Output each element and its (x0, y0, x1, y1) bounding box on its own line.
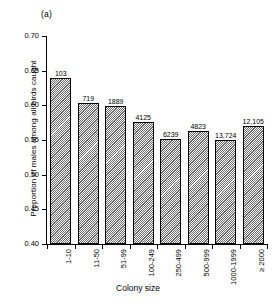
x-tick (240, 245, 241, 249)
x-tick (75, 245, 76, 249)
x-tick (102, 245, 103, 249)
bar-value-label: 13,724 (215, 132, 236, 139)
bar: 13,724 (215, 140, 236, 244)
bar-value-label: 103 (55, 70, 67, 77)
bar-value-label: 4823 (190, 123, 206, 130)
x-tick (185, 245, 186, 249)
x-category-label: 1000-1999 (229, 249, 238, 285)
bar-series: 103719188941256239482313,72412,105 (47, 36, 268, 244)
x-tick (47, 245, 48, 249)
plot-area: 0.400.450.500.550.600.650.70 10371918894… (46, 36, 268, 245)
bar: 103 (50, 78, 71, 244)
y-tick: 0.50 (42, 175, 46, 176)
x-category-label: 500-999 (202, 249, 211, 277)
x-category-label: 100-249 (147, 249, 156, 277)
y-tick-label: 0.45 (24, 204, 39, 213)
x-tick (130, 245, 131, 249)
bar: 4125 (133, 122, 154, 244)
y-tick: 0.40 (42, 244, 46, 245)
x-category-label: ≥ 2000 (257, 249, 266, 272)
y-tick: 0.45 (42, 209, 46, 210)
bar-value-label: 1889 (108, 98, 124, 105)
y-tick-label: 0.70 (24, 31, 39, 40)
bar-value-label: 12,105 (243, 118, 264, 125)
bar: 1889 (105, 106, 126, 244)
x-tick (267, 245, 268, 249)
bar-value-label: 6239 (163, 131, 179, 138)
x-category-label: 11-50 (92, 249, 101, 268)
figure-panel-a: (a) Proportion of males among all birds … (0, 0, 276, 303)
x-category-label: 1-10 (64, 249, 73, 264)
y-tick-label: 0.65 (24, 66, 39, 75)
bar-value-label: 4125 (135, 114, 151, 121)
x-tick (212, 245, 213, 249)
y-tick: 0.60 (42, 105, 46, 106)
bar-value-label: 719 (82, 95, 94, 102)
y-tick-label: 0.55 (24, 135, 39, 144)
y-tick: 0.70 (42, 36, 46, 37)
bar: 12,105 (243, 126, 264, 244)
bar: 4823 (188, 131, 209, 244)
y-tick-label: 0.40 (24, 239, 39, 248)
x-category-label: 51-99 (119, 249, 128, 268)
x-axis-title: Colony size (0, 283, 276, 293)
x-tick (157, 245, 158, 249)
y-tick-label: 0.50 (24, 170, 39, 179)
panel-label: (a) (41, 9, 52, 19)
y-tick: 0.55 (42, 140, 46, 141)
x-category-label: 250-499 (174, 249, 183, 277)
y-tick: 0.65 (42, 71, 46, 72)
y-tick-label: 0.60 (24, 100, 39, 109)
bar: 6239 (160, 139, 181, 244)
bar: 719 (78, 103, 99, 244)
